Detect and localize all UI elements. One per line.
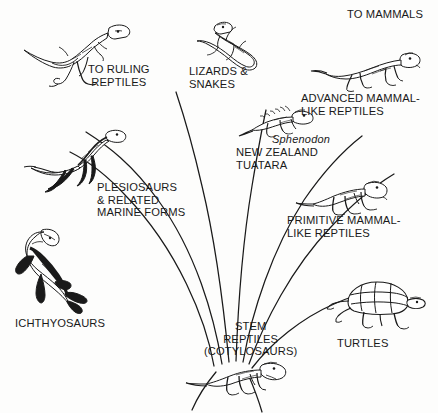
label-sphenodon: Sphenodon <box>272 133 330 146</box>
reptile-radiation-figure: TO RULING REPTILESLIZARDS & SNAKESTO MAM… <box>0 0 438 413</box>
label-advanced_mammal_like_reptiles: ADVANCED MAMMAL- LIKE REPTILES <box>301 92 420 117</box>
organism-cotylosaur <box>178 358 290 404</box>
label-ichthyosaurs: ICHTHYOSAURS <box>15 317 105 330</box>
label-to_ruling_reptiles: TO RULING REPTILES <box>88 63 150 88</box>
label-lizards_and_snakes: LIZARDS & SNAKES <box>189 65 248 90</box>
label-stem_reptiles: STEM REPTILES (COTYLOSAURS) <box>204 320 297 358</box>
label-plesiosaurs: PLESIOSAURS & RELATED MARINE FORMS <box>97 181 185 219</box>
organism-ichthyosaur <box>8 226 104 320</box>
label-primitive_mammal_like_reptiles: PRIMITIVE MAMMAL- LIKE REPTILES <box>287 214 401 239</box>
organism-turtle <box>318 277 428 339</box>
label-turtles: TURTLES <box>337 337 388 350</box>
label-new_zealand_tuatara: NEW ZEALAND TUATARA <box>236 146 318 171</box>
label-to_mammals: TO MAMMALS <box>347 8 423 21</box>
